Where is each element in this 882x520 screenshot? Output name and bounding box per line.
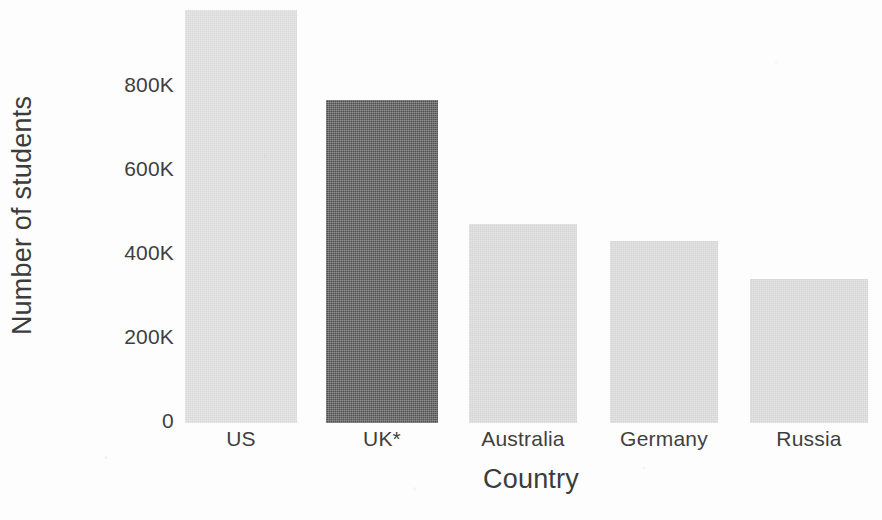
y-axis-title: Number of students bbox=[0, 0, 46, 430]
bar-slot bbox=[750, 0, 868, 423]
bar-uk[interactable] bbox=[326, 100, 438, 423]
bar-slot bbox=[185, 0, 297, 423]
bar-chart: Number of students 800K600K400K200K0 USU… bbox=[0, 0, 882, 520]
bar-us[interactable] bbox=[185, 10, 297, 423]
bar-slot bbox=[610, 0, 718, 423]
y-axis-tick-0: 0 bbox=[54, 409, 174, 433]
x-axis-tick-uk: UK* bbox=[326, 427, 438, 451]
x-axis-tick-australia: Australia bbox=[469, 427, 577, 451]
y-axis-title-label: Number of students bbox=[8, 95, 39, 334]
bar-slot bbox=[469, 0, 577, 423]
plot-area bbox=[180, 0, 882, 423]
y-axis-tick-600K: 600K bbox=[54, 157, 174, 181]
bar-slot bbox=[326, 0, 438, 423]
y-axis-tick-labels: 800K600K400K200K0 bbox=[46, 0, 174, 470]
bar-russia[interactable] bbox=[750, 279, 868, 423]
bar-germany[interactable] bbox=[610, 241, 718, 423]
x-axis-tick-russia: Russia bbox=[750, 427, 868, 451]
x-axis-title: Country bbox=[180, 464, 882, 495]
y-axis-tick-800K: 800K bbox=[54, 73, 174, 97]
bar-australia[interactable] bbox=[469, 224, 577, 423]
y-axis-tick-400K: 400K bbox=[54, 241, 174, 265]
x-axis-tick-labels: USUK*AustraliaGermanyRussia bbox=[180, 427, 882, 461]
x-axis-tick-us: US bbox=[185, 427, 297, 451]
y-axis-tick-200K: 200K bbox=[54, 325, 174, 349]
x-axis-tick-germany: Germany bbox=[610, 427, 718, 451]
